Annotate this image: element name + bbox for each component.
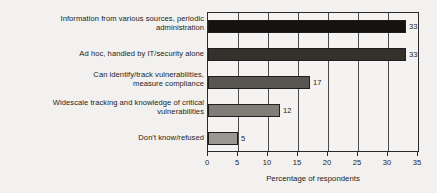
category-label-4-line-1: Don't know/refused xyxy=(4,133,204,142)
x-tick-25 xyxy=(357,152,358,156)
bar-0 xyxy=(208,20,406,33)
x-tick-30 xyxy=(387,152,388,156)
bar-value-label-2: 17 xyxy=(313,77,321,88)
x-tick-15 xyxy=(297,152,298,156)
category-label-0: Information from various sources, period… xyxy=(4,14,204,32)
category-label-2: Can identify/track vulnerabilities, meas… xyxy=(4,70,204,88)
category-label-0-line-2: administration xyxy=(4,23,204,32)
category-label-3-line-1: Widescale tracking and knowledge of crit… xyxy=(4,98,204,107)
bar-value-label-0: 33 xyxy=(409,21,417,32)
category-label-3-line-2: vulnerabilities xyxy=(4,107,204,116)
bar-row: 33 xyxy=(208,13,418,41)
x-tick-label-20: 20 xyxy=(323,157,331,168)
category-label-0-line-1: Information from various sources, period… xyxy=(4,14,204,23)
category-label-1: Ad hoc, handled by IT/security alone xyxy=(4,49,204,58)
x-tick-label-15: 15 xyxy=(293,157,301,168)
bar-value-label-3: 12 xyxy=(283,105,291,116)
bar-row: 12 xyxy=(208,97,418,125)
x-tick-label-30: 30 xyxy=(383,157,391,168)
x-tick-label-5: 5 xyxy=(235,157,239,168)
x-tick-35 xyxy=(417,152,418,156)
category-label-4: Don't know/refused xyxy=(4,133,204,142)
bar-value-label-4: 5 xyxy=(241,133,245,144)
x-tick-label-0: 0 xyxy=(205,157,209,168)
x-tick-20 xyxy=(327,152,328,156)
category-label-3: Widescale tracking and knowledge of crit… xyxy=(4,98,204,116)
category-label-1-line-1: Ad hoc, handled by IT/security alone xyxy=(4,49,204,58)
bar-value-label-1: 33 xyxy=(409,49,417,60)
plot-area: 333317125 xyxy=(207,12,419,152)
x-tick-label-25: 25 xyxy=(353,157,361,168)
category-axis-labels: Information from various sources, period… xyxy=(0,12,204,152)
bar-row: 33 xyxy=(208,41,418,69)
bar-row: 17 xyxy=(208,69,418,97)
bar-4 xyxy=(208,132,238,145)
bar-2 xyxy=(208,76,310,89)
x-tick-10 xyxy=(267,152,268,156)
x-axis-tick-labels: 05101520253035 xyxy=(207,157,419,169)
bar-1 xyxy=(208,48,406,61)
x-tick-0 xyxy=(207,152,208,156)
bar-3 xyxy=(208,104,280,117)
x-axis-title: Percentage of respondents xyxy=(207,173,419,184)
category-label-2-line-2: measure compliance xyxy=(4,79,204,88)
x-tick-label-35: 35 xyxy=(413,157,421,168)
bar-row: 5 xyxy=(208,125,418,153)
bar-chart: Information from various sources, period… xyxy=(0,0,437,193)
category-label-2-line-1: Can identify/track vulnerabilities, xyxy=(4,70,204,79)
x-tick-5 xyxy=(237,152,238,156)
x-tick-label-10: 10 xyxy=(263,157,271,168)
